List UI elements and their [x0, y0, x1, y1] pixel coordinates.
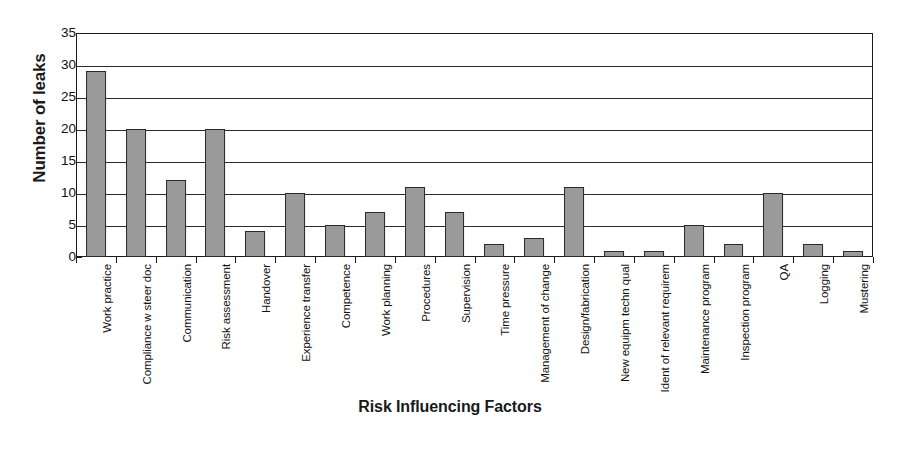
- x-axis-category-label: Design/fabrication: [579, 264, 591, 354]
- x-axis-category-label: Mustering: [858, 264, 870, 314]
- x-axis-tick-mark: [196, 257, 197, 263]
- x-axis-category-label: Compliance w steer doc: [141, 264, 153, 385]
- bar[interactable]: [365, 212, 385, 257]
- x-axis-tick-mark: [753, 257, 754, 263]
- bar-slot: [475, 33, 515, 257]
- y-axis-tick-label: 20: [36, 121, 76, 136]
- x-axis-tick-mark: [714, 257, 715, 263]
- bar-slot: [435, 33, 475, 257]
- bar[interactable]: [166, 180, 186, 257]
- bar[interactable]: [126, 129, 146, 257]
- bar-slot: [793, 33, 833, 257]
- x-axis-tick-mark: [594, 257, 595, 263]
- x-axis-tick-mark: [435, 257, 436, 263]
- y-axis-tick-label: 15: [36, 153, 76, 168]
- x-axis-category-label: Work practice: [101, 264, 113, 333]
- x-axis-category-label: Communication: [181, 264, 193, 343]
- bar-slot: [594, 33, 634, 257]
- x-axis-tick-mark: [315, 257, 316, 263]
- bar[interactable]: [405, 187, 425, 257]
- x-axis-tick-mark: [833, 257, 834, 263]
- x-axis-category-label: Procedures: [420, 264, 432, 322]
- x-axis-tick-mark: [235, 257, 236, 263]
- x-axis-tick-mark: [156, 257, 157, 263]
- bar-series: [76, 33, 873, 257]
- x-axis-tick-group: [76, 257, 873, 264]
- x-axis-tick-mark: [873, 257, 874, 263]
- x-axis-category-label: Logging: [818, 264, 830, 304]
- x-axis-category-label: Experience transfer: [300, 264, 312, 362]
- x-axis-tick-mark: [514, 257, 515, 263]
- bar[interactable]: [564, 187, 584, 257]
- x-axis-category-label: Management of change: [539, 264, 551, 383]
- x-axis-tick-mark: [634, 257, 635, 263]
- x-axis-tick-mark: [76, 257, 77, 263]
- bar-slot: [315, 33, 355, 257]
- x-axis-tick-mark: [475, 257, 476, 263]
- x-axis-category-label: New equipm techn qual: [619, 264, 631, 382]
- bar[interactable]: [325, 225, 345, 257]
- bar[interactable]: [684, 225, 704, 257]
- bar[interactable]: [763, 193, 783, 257]
- bar-slot: [554, 33, 594, 257]
- bar[interactable]: [86, 71, 106, 257]
- bar-slot: [235, 33, 275, 257]
- bar-slot: [634, 33, 674, 257]
- bar-slot: [355, 33, 395, 257]
- bar[interactable]: [445, 212, 465, 257]
- bar-slot: [196, 33, 236, 257]
- bar[interactable]: [484, 244, 504, 257]
- bar-slot: [275, 33, 315, 257]
- x-axis-category-label: QA: [778, 264, 790, 280]
- bar-slot: [674, 33, 714, 257]
- y-axis-tick-label: 5: [36, 217, 76, 232]
- x-axis-category-label: Handover: [260, 264, 272, 313]
- y-axis-tick-label: 0: [36, 249, 76, 264]
- x-axis-tick-mark: [793, 257, 794, 263]
- bar[interactable]: [206, 129, 226, 257]
- x-axis-category-label: Supervision: [460, 264, 472, 323]
- x-axis-tick-mark: [355, 257, 356, 263]
- bar[interactable]: [524, 238, 544, 257]
- y-axis-tick-label: 10: [36, 185, 76, 200]
- y-axis-tick-label: 30: [36, 57, 76, 72]
- x-axis-title: Risk Influencing Factors: [150, 398, 750, 416]
- bar-slot: [395, 33, 435, 257]
- x-axis-category-label: Risk assessment: [220, 264, 232, 349]
- x-axis-tick-mark: [275, 257, 276, 263]
- x-axis-category-label: Inspection program: [739, 264, 751, 361]
- bar-slot: [833, 33, 873, 257]
- x-axis-category-label: Work planning: [380, 264, 392, 336]
- y-axis-tick-label: 35: [36, 25, 76, 40]
- x-axis-category-label: Time pressure: [499, 264, 511, 336]
- bar[interactable]: [724, 244, 744, 257]
- x-axis-category-label: Maintenance program: [699, 264, 711, 374]
- bar-slot: [76, 33, 116, 257]
- bar-slot: [116, 33, 156, 257]
- bar[interactable]: [803, 244, 823, 257]
- bar[interactable]: [245, 231, 265, 257]
- x-axis-tick-mark: [674, 257, 675, 263]
- x-axis-category-label: Ident of relevant requirem: [659, 264, 671, 392]
- x-axis-category-label: Competence: [340, 264, 352, 328]
- bar-slot: [753, 33, 793, 257]
- bar-slot: [156, 33, 196, 257]
- x-axis-tick-mark: [554, 257, 555, 263]
- bar[interactable]: [285, 193, 305, 257]
- bar-slot: [714, 33, 754, 257]
- bar-slot: [514, 33, 554, 257]
- y-axis-tick-label: 25: [36, 89, 76, 104]
- x-axis-tick-mark: [116, 257, 117, 263]
- x-axis-tick-mark: [395, 257, 396, 263]
- x-axis-category-labels: Work practiceCompliance w steer docCommu…: [76, 264, 873, 394]
- bar-chart: Number of leaks 35302520151050 Work prac…: [0, 0, 906, 450]
- y-axis-tick-group: 35302520151050: [0, 33, 76, 257]
